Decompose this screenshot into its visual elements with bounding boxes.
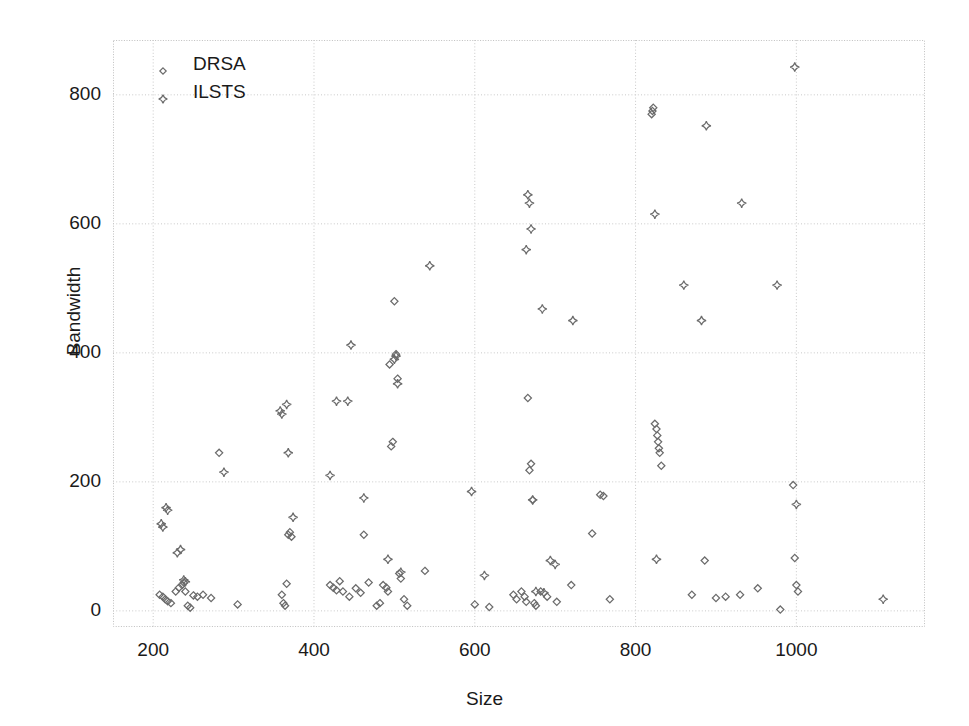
- data-point: [527, 460, 534, 467]
- legend-label-drsa: DRSA: [193, 53, 246, 75]
- data-point: [332, 397, 341, 406]
- x-tick-600: 600: [435, 639, 515, 661]
- x-tick-1000: 1000: [756, 639, 836, 661]
- data-point: [163, 506, 172, 515]
- data-point: [697, 316, 706, 325]
- data-point: [282, 400, 291, 409]
- data-point: [546, 556, 555, 565]
- data-point: [404, 602, 411, 609]
- data-point: [288, 513, 297, 522]
- data-point: [394, 375, 401, 382]
- data-point: [277, 410, 286, 419]
- data-point: [421, 567, 428, 574]
- data-point: [654, 432, 661, 439]
- x-tick-800: 800: [596, 639, 676, 661]
- data-point: [568, 581, 575, 588]
- data-point: [276, 406, 285, 415]
- data-point: [722, 593, 729, 600]
- data-point: [529, 496, 536, 503]
- y-tick-600: 600: [31, 212, 101, 234]
- data-point: [754, 585, 761, 592]
- data-point: [510, 591, 517, 598]
- y-tick-400: 400: [31, 341, 101, 363]
- data-point: [325, 471, 334, 480]
- data-point: [531, 587, 540, 596]
- data-point: [523, 190, 532, 199]
- gridlines: [113, 40, 925, 627]
- data-point: [652, 555, 661, 564]
- data-point: [568, 316, 577, 325]
- data-point: [359, 493, 368, 502]
- data-point: [393, 379, 402, 388]
- data-point: [486, 603, 493, 610]
- data-point: [219, 468, 228, 477]
- data-point: [513, 596, 520, 603]
- data-point: [701, 557, 708, 564]
- data-point: [343, 397, 352, 406]
- data-point: [526, 224, 535, 233]
- data-point: [278, 591, 285, 598]
- data-point: [386, 361, 393, 368]
- data-point: [658, 462, 665, 469]
- data-point: [737, 199, 746, 208]
- legend-marker-ilsts: [155, 91, 171, 107]
- data-point: [400, 596, 407, 603]
- data-point: [589, 530, 596, 537]
- plot-frame: [114, 41, 925, 627]
- data-point: [777, 606, 784, 613]
- data-point: [525, 199, 534, 208]
- plot-area: [113, 40, 925, 627]
- data-point: [157, 519, 166, 528]
- y-tick-800: 800: [31, 83, 101, 105]
- data-point: [339, 588, 346, 595]
- data-point: [791, 554, 798, 561]
- data-point: [654, 438, 661, 445]
- data-point: [425, 261, 434, 270]
- data-point: [606, 596, 613, 603]
- data-point: [538, 304, 547, 313]
- data-point: [879, 595, 888, 604]
- data-point: [790, 481, 797, 488]
- data-point: [182, 588, 189, 595]
- data-point: [736, 591, 743, 598]
- y-tick-200: 200: [31, 470, 101, 492]
- data-point: [772, 281, 781, 290]
- data-point: [284, 448, 293, 457]
- scatter-chart: Bandwidth Size 0200400600800 20040060080…: [0, 0, 969, 726]
- series-drsa: [156, 104, 802, 613]
- y-tick-0: 0: [31, 599, 101, 621]
- data-point: [650, 210, 659, 219]
- legend-label-ilsts: ILSTS: [193, 81, 246, 103]
- data-point: [391, 298, 398, 305]
- data-point: [158, 522, 167, 531]
- data-point: [551, 560, 560, 569]
- data-point: [346, 593, 353, 600]
- data-point: [679, 281, 688, 290]
- data-point: [176, 545, 185, 554]
- series-ilsts: [157, 62, 888, 603]
- data-point: [539, 588, 548, 597]
- data-point: [522, 245, 531, 254]
- data-point: [161, 503, 170, 512]
- data-point: [336, 578, 343, 585]
- data-point: [391, 351, 400, 360]
- plot-canvas: [113, 40, 925, 627]
- data-point: [524, 394, 531, 401]
- data-point: [528, 495, 537, 504]
- data-point: [216, 449, 223, 456]
- data-point: [346, 341, 355, 350]
- data-point: [207, 594, 214, 601]
- data-point: [790, 62, 799, 71]
- x-tick-400: 400: [274, 639, 354, 661]
- data-point: [360, 531, 367, 538]
- data-point: [702, 121, 711, 130]
- data-point: [172, 588, 179, 595]
- legend-marker-drsa: [155, 63, 171, 79]
- data-point: [365, 579, 372, 586]
- data-point: [526, 467, 533, 474]
- data-point: [383, 555, 392, 564]
- data-point: [688, 591, 695, 598]
- x-tick-200: 200: [113, 639, 193, 661]
- data-point: [234, 601, 241, 608]
- data-point: [553, 598, 560, 605]
